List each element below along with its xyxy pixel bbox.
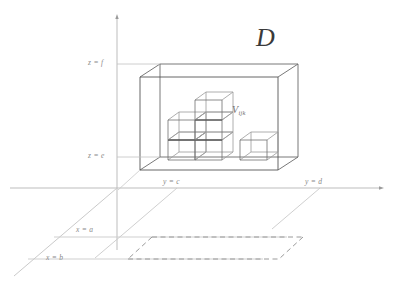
label-x-equals-b: x = b [46, 254, 63, 262]
region-box-D [140, 64, 298, 170]
guide-line-y-equals-c [128, 188, 177, 230]
figure-canvas: z = f z = e y = c y = d x = a x = b D Vi… [0, 0, 400, 282]
box-depth-edges [140, 64, 298, 170]
box-front-face [140, 77, 278, 170]
guide-line-y-equals-c-lower [95, 230, 128, 258]
base-rectangle-dashed [128, 237, 303, 259]
box-edge-top-right [278, 64, 298, 77]
label-z-equals-e: z = e [88, 152, 105, 160]
cell-bottom-right [240, 132, 278, 160]
dashed-edge-right [279, 237, 303, 259]
dashed-edge-left [128, 237, 152, 259]
cell-top-center-depth [195, 92, 233, 120]
diagram-svg [0, 0, 400, 282]
guide-line-y-equals-d [272, 188, 320, 229]
z-axis-arrow-icon [115, 14, 118, 19]
label-cell-Vijk: Vijk [232, 105, 246, 115]
box-edge-bottom-right [278, 157, 298, 170]
ground-plane-guides [28, 188, 320, 259]
label-y-equals-d: y = d [305, 178, 322, 186]
cell-bottom-right-depth [240, 132, 278, 160]
z-tick-connectors [117, 64, 160, 157]
label-y-equals-c: y = c [163, 178, 180, 186]
box-edge-top-left [140, 64, 160, 77]
projection-line-left [118, 170, 140, 190]
label-z-equals-f: z = f [88, 59, 103, 67]
projection-lines [118, 170, 140, 190]
label-cell-Vijk-subscript: ijk [238, 109, 245, 116]
label-region-D: D [256, 25, 275, 51]
box-edge-bottom-left [140, 157, 160, 170]
box-back-face [160, 64, 298, 157]
x-axis [14, 188, 117, 276]
cell-top-center [195, 92, 233, 120]
y-axis-arrow-icon [379, 186, 384, 189]
subdivision-cells-group [168, 92, 278, 160]
label-x-equals-a: x = a [76, 226, 93, 234]
